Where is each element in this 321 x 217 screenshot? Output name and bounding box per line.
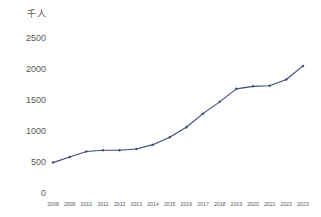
x-axis-tick-label: 2016 bbox=[181, 201, 193, 208]
x-axis-tick-label: 2019 bbox=[231, 201, 243, 208]
data-point-marker bbox=[68, 156, 71, 159]
data-point-marker bbox=[268, 84, 271, 87]
x-axis-tick-label: 2022 bbox=[281, 201, 293, 208]
data-point-marker bbox=[85, 150, 88, 153]
data-point-markers bbox=[52, 64, 305, 164]
x-axis-tick-label: 2009 bbox=[64, 201, 76, 208]
data-point-marker bbox=[118, 149, 121, 152]
x-axis-tick-label: 2013 bbox=[131, 201, 143, 208]
plot-area bbox=[0, 0, 321, 217]
x-axis-tick-label: 2015 bbox=[164, 201, 176, 208]
x-axis-tick-label: 2021 bbox=[264, 201, 276, 208]
data-point-marker bbox=[135, 147, 138, 150]
data-point-marker bbox=[52, 161, 55, 164]
line-chart: 千人 25002000150010005000 2008200920102011… bbox=[0, 0, 321, 217]
x-axis-tick-label: 2012 bbox=[114, 201, 126, 208]
data-point-marker bbox=[252, 85, 255, 88]
x-axis-tick-label: 2023 bbox=[297, 201, 309, 208]
x-axis-tick-label: 2008 bbox=[47, 201, 59, 208]
x-axis-tick-label: 2011 bbox=[97, 201, 108, 208]
x-axis-tick-label: 2020 bbox=[247, 201, 259, 208]
x-axis: 2008200920102011201220132014201520162017… bbox=[0, 201, 321, 215]
x-axis-tick-label: 2010 bbox=[81, 201, 93, 208]
x-axis-tick-label: 2018 bbox=[214, 201, 226, 208]
x-axis-tick-label: 2014 bbox=[147, 201, 159, 208]
data-series-line bbox=[53, 66, 303, 163]
data-point-marker bbox=[102, 149, 105, 152]
x-axis-tick-label: 2017 bbox=[197, 201, 209, 208]
